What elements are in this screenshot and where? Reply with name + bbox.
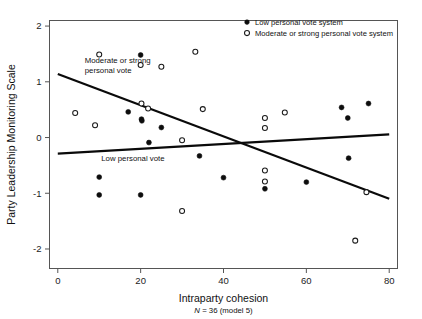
plot-annotation-label: Low personal vote xyxy=(101,154,164,163)
data-point-open xyxy=(93,123,98,128)
data-point-open xyxy=(364,190,369,195)
data-point-open xyxy=(262,179,267,184)
scatter-plot-figure: 020406080210-1-2 Moderate or strongperso… xyxy=(0,0,422,319)
data-point-open xyxy=(262,116,267,121)
x-axis-tick-label: 60 xyxy=(301,275,312,286)
data-point-filled xyxy=(262,186,267,191)
data-points-group xyxy=(73,49,371,243)
legend-marker-filled-circle xyxy=(245,20,250,25)
x-axis-tick-label: 0 xyxy=(55,275,60,286)
plot-annotation-label: Moderate or strong xyxy=(85,56,151,65)
y-axis-title: Party Leadership Monitoring Scale xyxy=(5,64,17,225)
data-point-filled xyxy=(97,192,102,197)
data-point-open xyxy=(262,168,267,173)
y-axis-tick-label: 1 xyxy=(36,76,41,87)
data-point-filled xyxy=(159,125,164,130)
legend-item-label: Low personal vote system xyxy=(255,18,343,27)
data-point-filled xyxy=(346,156,351,161)
data-point-open xyxy=(146,106,151,111)
data-point-open xyxy=(353,238,358,243)
data-point-filled xyxy=(126,109,131,114)
data-point-filled xyxy=(139,118,144,123)
data-point-open xyxy=(159,64,164,69)
data-point-filled xyxy=(97,175,102,180)
y-axis-tick-label: 0 xyxy=(36,132,41,143)
x-axis-subtitle: N = 36 (model 5) xyxy=(194,306,253,315)
data-point-filled xyxy=(221,175,226,180)
legend-item-label: Moderate or strong personal vote system xyxy=(255,29,393,38)
y-axis-tick-label: -2 xyxy=(33,243,41,254)
x-axis-tick-label: 80 xyxy=(384,275,395,286)
data-point-filled xyxy=(366,101,371,106)
data-point-open xyxy=(180,138,185,143)
x-axis-tick-label: 20 xyxy=(135,275,146,286)
data-point-filled xyxy=(146,140,151,145)
data-point-filled xyxy=(304,180,309,185)
data-point-open xyxy=(282,110,287,115)
data-point-filled xyxy=(339,105,344,110)
y-axis-tick-label: -1 xyxy=(33,188,41,199)
x-axis-subtitle-text: = 36 (model 5) xyxy=(200,306,253,315)
legend-marker-open-circle xyxy=(245,31,250,36)
data-point-open xyxy=(193,49,198,54)
x-axis-title: Intraparty cohesion xyxy=(179,292,268,304)
y-axis-tick-label: 2 xyxy=(36,20,41,31)
x-axis-tick-label: 40 xyxy=(218,275,229,286)
data-point-open xyxy=(139,101,144,106)
data-point-open xyxy=(73,111,78,116)
plot-annotation-label: personal vote xyxy=(85,66,132,75)
data-point-filled xyxy=(138,192,143,197)
data-point-open xyxy=(200,107,205,112)
data-point-open xyxy=(180,209,185,214)
chart-canvas: 020406080210-1-2 Moderate or strongperso… xyxy=(0,0,422,319)
data-point-filled xyxy=(345,116,350,121)
data-point-filled xyxy=(197,153,202,158)
data-point-open xyxy=(262,126,267,131)
